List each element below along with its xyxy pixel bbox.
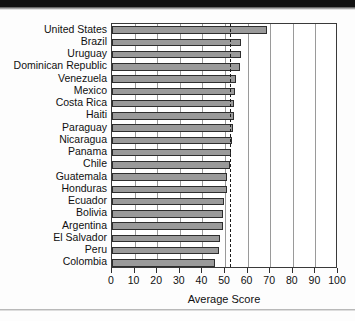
y-axis-category-labels: United StatesBrazilUruguayDominican Repu…: [0, 23, 107, 268]
gridline-x-30: [180, 24, 181, 267]
x-axis-title: Average Score: [111, 293, 337, 305]
x-tick-label-40: 40: [196, 275, 208, 286]
bar: [112, 75, 236, 83]
bar: [112, 124, 233, 132]
y-axis-label-venezuela: Venezuela: [58, 73, 107, 84]
x-tick-90: [314, 268, 315, 273]
bar: [112, 112, 234, 120]
y-axis-label-guatemala: Guatemala: [56, 171, 107, 182]
horizontal-bar-chart: United StatesBrazilUruguayDominican Repu…: [0, 0, 355, 321]
gridline-x-50: [225, 24, 226, 267]
bar: [112, 259, 215, 267]
x-tick-30: [179, 268, 180, 273]
gridline-x-90: [315, 24, 316, 267]
y-axis-label-nicaragua: Nicaragua: [59, 134, 107, 145]
y-axis-label-brazil: Brazil: [81, 36, 107, 47]
bar: [112, 173, 227, 181]
bar: [112, 51, 241, 59]
y-axis-label-bolivia: Bolivia: [76, 207, 107, 218]
bar: [112, 39, 241, 47]
reference-line: [230, 24, 231, 267]
chart-page: United StatesBrazilUruguayDominican Repu…: [0, 0, 355, 321]
bar: [112, 88, 235, 96]
bar: [112, 247, 219, 255]
x-tick-20: [156, 268, 157, 273]
y-axis-label-united-states: United States: [44, 24, 107, 35]
gridline-x-70: [270, 24, 271, 267]
bar: [112, 137, 232, 145]
gridline-x-80: [293, 24, 294, 267]
x-tick-label-30: 30: [173, 275, 185, 286]
x-tick-label-20: 20: [150, 275, 162, 286]
y-axis-label-ecuador: Ecuador: [68, 195, 107, 206]
x-tick-label-0: 0: [108, 275, 114, 286]
y-axis-label-peru: Peru: [85, 244, 107, 255]
bar: [112, 149, 231, 157]
x-tick-label-90: 90: [309, 275, 321, 286]
x-tick-label-50: 50: [218, 275, 230, 286]
y-axis-label-el-salvador: El Salvador: [53, 232, 107, 243]
x-tick-100: [337, 268, 338, 273]
gridline-x-60: [248, 24, 249, 267]
y-axis-label-mexico: Mexico: [74, 85, 107, 96]
x-tick-label-70: 70: [263, 275, 275, 286]
bar: [112, 100, 234, 108]
y-axis-label-panama: Panama: [68, 146, 107, 157]
x-tick-label-100: 100: [328, 275, 346, 286]
y-axis-label-haiti: Haiti: [86, 109, 107, 120]
x-tick-label-10: 10: [128, 275, 140, 286]
y-axis-label-argentina: Argentina: [62, 220, 107, 231]
gridline-x-20: [157, 24, 158, 267]
x-tick-label-60: 60: [241, 275, 253, 286]
y-axis-label-paraguay: Paraguay: [62, 122, 107, 133]
bar: [112, 63, 240, 71]
y-axis-label-costa-rica: Costa Rica: [56, 97, 107, 108]
bar: [112, 235, 220, 243]
bar: [112, 26, 267, 34]
y-axis-label-honduras: Honduras: [61, 183, 107, 194]
x-tick-40: [201, 268, 202, 273]
x-tick-label-80: 80: [286, 275, 298, 286]
bar: [112, 222, 223, 230]
x-tick-10: [134, 268, 135, 273]
gridline-x-40: [202, 24, 203, 267]
bar: [112, 161, 230, 169]
y-axis-label-dominican-republic: Dominican Republic: [14, 60, 107, 71]
y-axis-label-chile: Chile: [83, 158, 107, 169]
x-tick-0: [111, 268, 112, 273]
y-axis-label-colombia: Colombia: [63, 256, 107, 267]
plot-area: [111, 23, 337, 268]
x-tick-60: [247, 268, 248, 273]
bar: [112, 210, 223, 218]
bar: [112, 186, 227, 194]
page-rule-shadow: [0, 310, 355, 311]
gridline-x-10: [135, 24, 136, 267]
x-tick-80: [292, 268, 293, 273]
y-axis-label-uruguay: Uruguay: [67, 48, 107, 59]
bar: [112, 198, 224, 206]
x-tick-50: [224, 268, 225, 273]
x-tick-70: [269, 268, 270, 273]
